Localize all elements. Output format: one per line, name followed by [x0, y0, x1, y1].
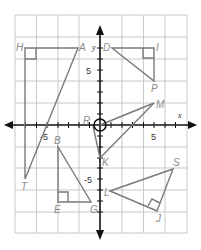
label-s: S — [173, 157, 180, 168]
label-l: L — [104, 187, 110, 198]
label-g: G — [90, 204, 98, 215]
label-k: K — [102, 157, 110, 168]
x-axis-right-arrow-icon — [188, 121, 197, 129]
label-p: P — [151, 83, 158, 94]
x-axis-left-arrow-icon — [4, 121, 13, 129]
right-angle-marker-i — [143, 48, 154, 58]
label-m: M — [156, 99, 165, 110]
right-angle-marker-j — [148, 199, 160, 206]
label-t: T — [21, 181, 28, 192]
x-tick-label-5: 5 — [151, 132, 156, 142]
y-axis-up-arrow-icon — [96, 25, 104, 35]
y-tick-label-5: 5 — [86, 66, 91, 76]
label-j: J — [155, 213, 162, 224]
triangle-hat — [25, 48, 78, 179]
y-axis-label: y — [91, 43, 96, 52]
triangle-dip — [112, 48, 154, 81]
label-b: B — [54, 135, 61, 146]
label-r: R — [83, 115, 90, 126]
x-axis-label: x — [177, 111, 182, 120]
label-i: I — [156, 42, 159, 53]
coordinate-plane: -5 5 5 -5 x y H A T D I P M R K B E G L … — [0, 0, 201, 250]
right-angle-marker-e — [58, 192, 68, 202]
y-tick-label-neg5: -5 — [84, 175, 92, 185]
label-d: D — [103, 42, 110, 53]
label-h: H — [16, 42, 24, 53]
label-e: E — [54, 204, 61, 215]
y-axis-down-arrow-icon — [96, 230, 104, 240]
right-angle-marker-h — [25, 48, 36, 59]
segment-rm — [100, 103, 154, 125]
label-a: A — [78, 42, 86, 53]
segment-km — [100, 103, 154, 158]
